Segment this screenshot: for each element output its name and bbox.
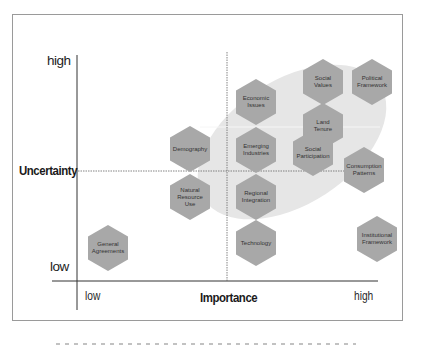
social-values-label: SocialValues bbox=[297, 75, 349, 89]
land-tenure-label: LandTenure bbox=[297, 119, 349, 133]
factor-label-line: Issues bbox=[230, 102, 282, 109]
factor-label-line: Agreements bbox=[82, 248, 134, 255]
factor-label-line: Framework bbox=[351, 239, 403, 246]
political-framework-label: PoliticalFramework bbox=[346, 75, 398, 89]
regional-integration-label: RegionalIntegration bbox=[230, 190, 282, 204]
factor-label-line: Resource bbox=[164, 194, 216, 201]
factor-label-line: Demography bbox=[164, 146, 216, 153]
demography-label: Demography bbox=[164, 146, 216, 153]
factor-label-line: Consumption bbox=[338, 163, 390, 170]
institutional-framework-label: InstitutionalFramework bbox=[351, 232, 403, 246]
consumption-patterns-label: ConsumptionPatterns bbox=[338, 163, 390, 177]
economic-issues-label: EconomicIssues bbox=[230, 95, 282, 109]
factor-label-line: Political bbox=[346, 75, 398, 82]
factor-label-line: Participation bbox=[287, 153, 339, 160]
factor-label-line: Industries bbox=[230, 150, 282, 157]
x-axis-high-label: high bbox=[354, 289, 373, 303]
caption-cutoff bbox=[56, 341, 356, 346]
factor-label-line: Social bbox=[297, 75, 349, 82]
factor-label-line: Framework bbox=[346, 82, 398, 89]
factor-label-line: Natural bbox=[164, 187, 216, 194]
factor-label-line: Economic bbox=[230, 95, 282, 102]
factor-label-line: General bbox=[82, 241, 134, 248]
factor-label-line: Tenure bbox=[297, 126, 349, 133]
x-axis-title: Importance bbox=[200, 290, 257, 305]
factor-label-line: Social bbox=[287, 146, 339, 153]
y-axis-title: Uncertainty bbox=[19, 163, 77, 178]
technology-label: Technology bbox=[230, 240, 282, 247]
factor-label-line: Regional bbox=[230, 190, 282, 197]
general-agreements-label: GeneralAgreements bbox=[82, 241, 134, 255]
x-axis-low-label: low bbox=[85, 289, 100, 303]
emerging-industries-label: EmergingIndustries bbox=[230, 143, 282, 157]
factor-label-line: Use bbox=[164, 201, 216, 208]
y-axis-high-label: high bbox=[47, 53, 71, 68]
y-axis-low-label: low bbox=[50, 259, 69, 274]
factor-label-line: Integration bbox=[230, 197, 282, 204]
factor-label-line: Technology bbox=[230, 240, 282, 247]
social-participation-label: SocialParticipation bbox=[287, 146, 339, 160]
factor-label-line: Land bbox=[297, 119, 349, 126]
natural-resource-use-label: NaturalResourceUse bbox=[164, 187, 216, 208]
factor-label-line: Values bbox=[297, 82, 349, 89]
factor-label-line: Patterns bbox=[338, 170, 390, 177]
factor-label-line: Institutional bbox=[351, 232, 403, 239]
factor-label-line: Emerging bbox=[230, 143, 282, 150]
